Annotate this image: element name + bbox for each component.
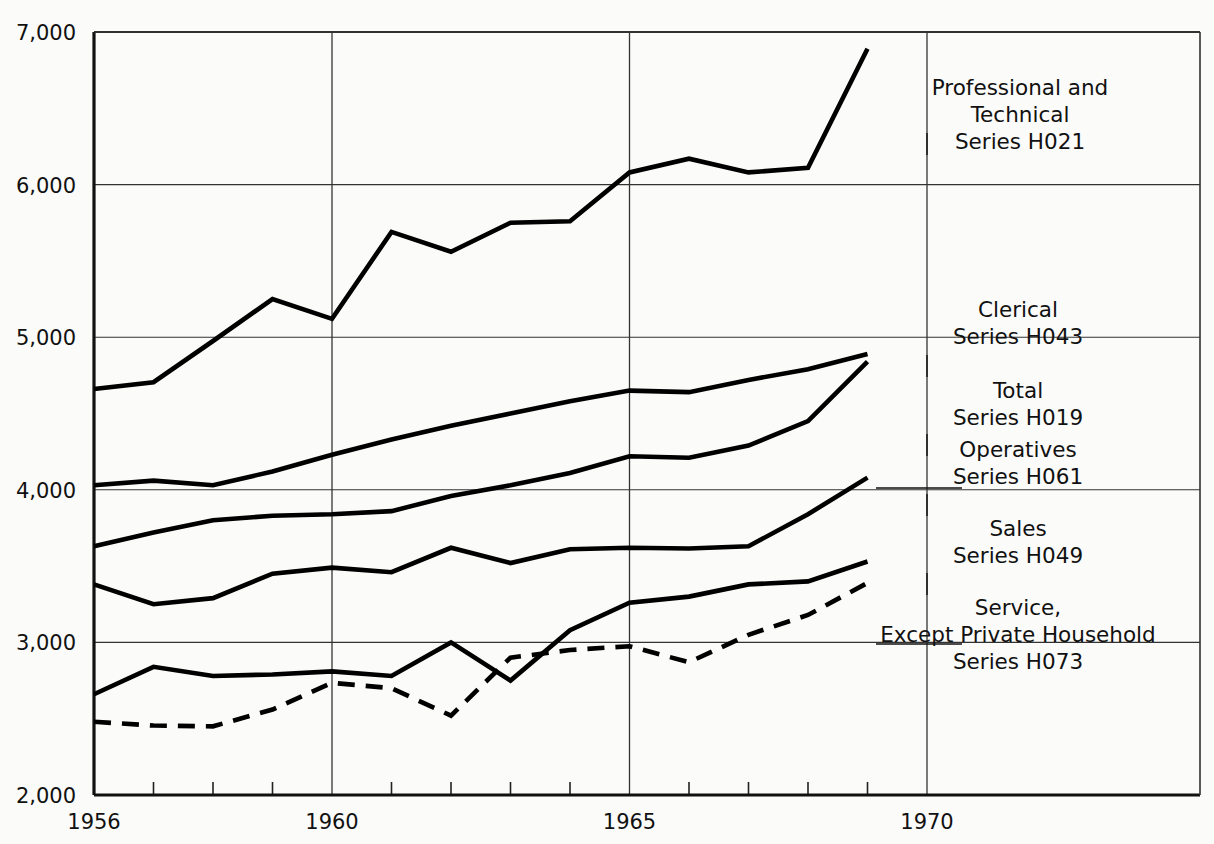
employment-line-chart: 2,0003,0004,0005,0006,0007,000 195619601…: [0, 0, 1214, 844]
annotation-line: Clerical: [978, 297, 1058, 322]
x-axis-tick-label: 1970: [900, 810, 953, 834]
y-axis-tick-label: 2,000: [16, 784, 76, 808]
y-axis-tick-label: 4,000: [16, 479, 76, 503]
annotation-line: Series H073: [953, 649, 1083, 674]
annotation-line: Service,: [975, 595, 1061, 620]
annotation-line: Professional and: [932, 75, 1109, 100]
annotation-line: Operatives: [959, 437, 1076, 462]
x-axis-tick-label: 1965: [603, 810, 656, 834]
annotation-line: Series H019: [953, 405, 1083, 430]
annotation-line: Series H021: [955, 129, 1085, 154]
annotation-line: Series H049: [953, 543, 1083, 568]
x-axis-tick-label: 1956: [67, 810, 120, 834]
y-axis-tick-label: 7,000: [16, 21, 76, 45]
annotation-line: Series H061: [953, 464, 1083, 489]
x-axis-tick-label: 1960: [305, 810, 358, 834]
y-axis-tick-label: 3,000: [16, 631, 76, 655]
annotation-line: Total: [992, 378, 1043, 403]
y-axis-tick-label: 6,000: [16, 174, 76, 198]
annotation-line: Technical: [970, 102, 1070, 127]
annotation-line: Sales: [989, 516, 1046, 541]
annotation-line: Series H043: [953, 324, 1083, 349]
y-axis-tick-label: 5,000: [16, 326, 76, 350]
chart-figure: 2,0003,0004,0005,0006,0007,000 195619601…: [0, 0, 1214, 844]
